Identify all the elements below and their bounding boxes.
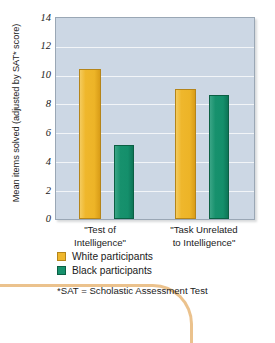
bar-white-participants-task-unrelated (175, 89, 196, 219)
legend-label-white-participants: White participants (72, 251, 153, 262)
y-tick-label-12: 12 (29, 40, 51, 51)
y-tick-label-14: 14 (29, 12, 51, 23)
white-participants-swatch-icon (57, 252, 66, 261)
x-category-label-line2: to Intelligence" (152, 237, 256, 250)
x-category-label-task-unrelated: "Task Unrelated to Intelligence" (152, 224, 256, 249)
plot-area (55, 17, 255, 220)
bar-black-participants-task-unrelated (209, 95, 229, 219)
legend: White participants Black participants (57, 250, 153, 278)
y-tick-label-2: 2 (29, 185, 51, 196)
y-tick-label-8: 8 (29, 98, 51, 109)
bar-white-participants-test-of-intelligence (79, 69, 101, 219)
x-category-label-test-of-intelligence: "Test of Intelligence" (56, 224, 144, 249)
y-axis-title: Mean items solved (adjusted by SAT* scor… (11, 13, 21, 213)
legend-item-white-participants: White participants (57, 250, 153, 263)
black-participants-swatch-icon (57, 266, 66, 275)
y-tick-label-6: 6 (29, 127, 51, 138)
y-tick-label-10: 10 (29, 69, 51, 80)
y-tick-label-4: 4 (29, 156, 51, 167)
legend-label-black-participants: Black participants (72, 265, 152, 276)
x-category-label-line2: Intelligence" (56, 237, 144, 250)
bar-black-participants-test-of-intelligence (114, 145, 134, 219)
x-category-label-line1: "Test of (56, 224, 144, 237)
y-tick-label-0: 0 (29, 213, 51, 224)
footnote: *SAT = Scholastic Assessment Test (57, 285, 208, 296)
gridline-12 (56, 47, 254, 48)
x-category-label-line1: "Task Unrelated (152, 224, 256, 237)
legend-item-black-participants: Black participants (57, 264, 153, 277)
